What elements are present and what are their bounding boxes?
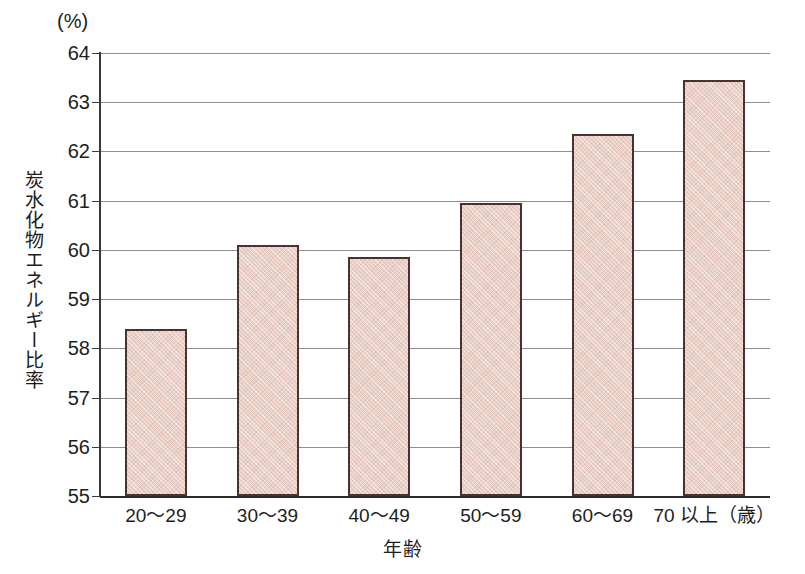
- y-axis-tick-mark: [92, 201, 101, 202]
- gridline: [100, 447, 770, 448]
- x-axis-title: 年齢: [0, 534, 805, 561]
- y-axis-tick-label: 62: [40, 140, 90, 163]
- y-axis-tick-label: 57: [40, 386, 90, 409]
- plot-area: [100, 53, 770, 496]
- x-axis-tick-label: 40～49: [349, 500, 410, 527]
- x-axis-tick-label: 60～69: [572, 500, 633, 527]
- gridline: [100, 398, 770, 399]
- gridline: [100, 348, 770, 349]
- bar: [237, 245, 299, 496]
- gridline: [100, 201, 770, 202]
- y-axis-tick-label: 64: [40, 42, 90, 65]
- x-axis-baseline: [100, 496, 770, 498]
- x-axis-tick-label: 30～39: [237, 500, 298, 527]
- y-axis-unit-label: (%): [57, 10, 88, 33]
- y-axis-tick-label: 61: [40, 189, 90, 212]
- x-axis-tick-label: 50～59: [460, 500, 521, 527]
- bar: [125, 329, 187, 496]
- gridline: [100, 299, 770, 300]
- y-axis-tick-mark: [92, 250, 101, 251]
- y-axis-title: 炭水化物エネルギー比率: [8, 155, 42, 405]
- y-axis-tick-mark: [92, 398, 101, 399]
- y-axis-tick-label: 55: [40, 485, 90, 508]
- gridline: [100, 53, 770, 54]
- x-axis-tick-label: 70 以上（歳）: [653, 500, 774, 527]
- y-axis-tick-mark: [92, 496, 101, 497]
- bar: [348, 257, 410, 496]
- y-axis-tick-mark: [92, 348, 101, 349]
- y-axis-tick-label: 59: [40, 288, 90, 311]
- y-axis-tick-label: 58: [40, 337, 90, 360]
- y-axis-tick-label: 60: [40, 238, 90, 261]
- y-axis-tick-label: 56: [40, 435, 90, 458]
- y-axis-tick-mark: [92, 299, 101, 300]
- gridline: [100, 102, 770, 103]
- y-axis-tick-mark: [92, 53, 101, 54]
- bar-chart: (%) 炭水化物エネルギー比率 64636261605958575655 20～…: [0, 0, 805, 574]
- x-axis-tick-label: 20～29: [125, 500, 186, 527]
- y-axis-tick-label: 63: [40, 91, 90, 114]
- y-axis-tick-mark: [92, 447, 101, 448]
- y-axis-tick-mark: [92, 102, 101, 103]
- bar: [460, 203, 522, 496]
- gridline: [100, 151, 770, 152]
- bar: [683, 80, 745, 496]
- bar: [572, 134, 634, 496]
- y-axis-tick-mark: [92, 151, 101, 152]
- gridline: [100, 250, 770, 251]
